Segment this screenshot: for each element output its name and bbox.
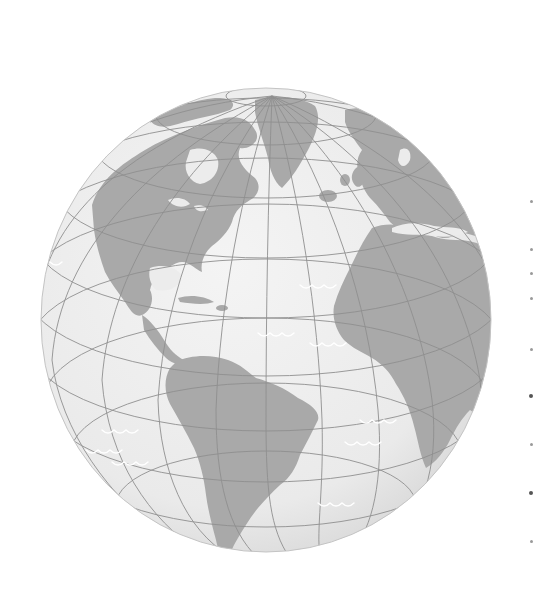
edge-tick-mark (530, 348, 533, 351)
edge-tick-mark (529, 394, 533, 398)
edge-tick-mark (530, 200, 533, 203)
globe-illustration (0, 0, 535, 614)
edge-tick-mark (529, 491, 533, 495)
edge-tick-mark (530, 540, 533, 543)
edge-tick-mark (530, 248, 533, 251)
edge-tick-mark (530, 443, 533, 446)
edge-tick-mark (530, 272, 533, 275)
edge-tick-mark (530, 297, 533, 300)
